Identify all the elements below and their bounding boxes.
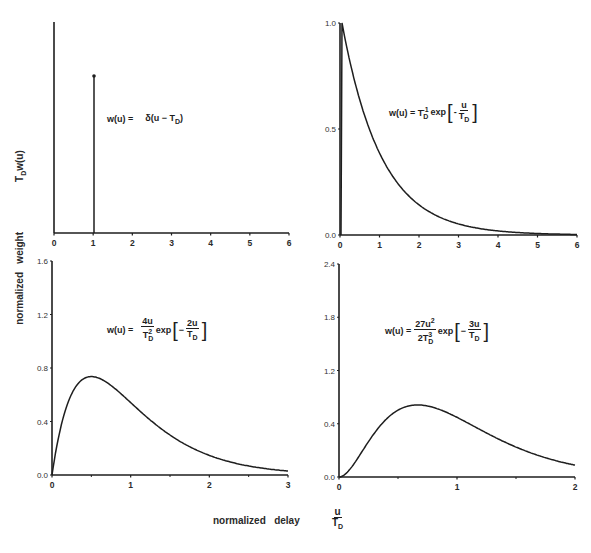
x-tick-label: 0 (338, 240, 343, 250)
x-tick-label: 1 (128, 480, 133, 490)
impulse-arrow-tip (92, 74, 96, 78)
x-axis-label-fraction: uTD (330, 507, 345, 532)
y-ticks: 0.00.40.81.21.6 (37, 257, 52, 480)
exponential-curve (341, 23, 577, 235)
y-tick-label: 0.4 (324, 420, 336, 429)
x-ticks: 0123456 (52, 233, 292, 248)
x-ticks: 0123456 (338, 235, 580, 250)
exp-label: exp (438, 326, 454, 336)
y-tick-label: 0.5 (325, 125, 337, 134)
figure-canvas: 0123456 0123456 0.00.51.0 0123 0.00.40.8… (0, 0, 591, 553)
x-tick-label: 3 (456, 240, 461, 250)
x-tick-label: 1 (91, 238, 96, 248)
x-ticks: 0123 (50, 475, 291, 490)
fraction: uTD (459, 100, 470, 125)
y-tick-label: 0.0 (325, 231, 337, 240)
coefficient-fraction: 4uTD2 (141, 316, 154, 344)
formula-exponential: w(u) = TD-1 exp [ - uTD ] (389, 100, 479, 125)
right-bracket: ] (202, 320, 208, 340)
y-ticks: 0.00.41.21.82.4 (324, 260, 339, 482)
x-tick-label: 5 (535, 240, 540, 250)
x-tick-label: 4 (496, 240, 501, 250)
x-tick-label: 0 (52, 238, 57, 248)
right-bracket: ] (484, 321, 490, 341)
formula-gamma3: w(u) = 27u22TD3 exp [ − 3uTD ] (385, 316, 490, 347)
x-axis-label: normalized delay (213, 515, 300, 526)
minus-sign: − (461, 326, 466, 336)
formula-lhs: w(u) = (385, 326, 411, 336)
formula-lhs: w(u) = (107, 114, 133, 124)
x-tick-label: 0 (50, 480, 55, 490)
y-tick-label: 1.2 (324, 367, 336, 376)
panel-bottom-left: 0123 0.00.40.81.21.6 (37, 257, 291, 490)
x-ticks: 012 (337, 477, 578, 492)
right-bracket: ] (472, 102, 478, 122)
x-tick-label: 1 (455, 482, 460, 492)
formula-gamma2: w(u) = 4uTD2 exp [ − 2uTD ] (107, 316, 208, 344)
y-tick-label: 1.6 (37, 257, 49, 266)
formula-lhs: w(u) = TD-1 (389, 106, 429, 120)
y-tick-label: 1.0 (325, 19, 337, 28)
formula-delta: w(u) = δ(u − TD) (107, 113, 183, 125)
x-tick-label: 5 (247, 238, 252, 248)
gamma3-curve (339, 405, 575, 477)
left-bracket: [ (454, 321, 460, 341)
x-tick-label: 0 (337, 482, 342, 492)
left-bracket: [ (447, 102, 453, 122)
panel-bottom-right: 012 0.00.41.21.82.4 (324, 260, 578, 492)
x-tick-label: 4 (208, 238, 213, 248)
x-tick-label: 3 (286, 480, 291, 490)
x-tick-label: 6 (575, 240, 580, 250)
y-tick-label: 1.8 (324, 313, 336, 322)
x-tick-label: 3 (169, 238, 174, 248)
fraction: 3uTD (468, 319, 481, 344)
left-bracket: [ (172, 320, 178, 340)
y-axis-label: normalized weight TDw(u) (14, 123, 27, 353)
exp-label: exp (431, 107, 447, 117)
x-tick-label: 2 (207, 480, 212, 490)
gamma2-curve (52, 377, 288, 475)
y-tick-label: 0.0 (37, 471, 49, 480)
coefficient-fraction: 27u22TD3 (414, 316, 435, 347)
panel-top-right: 0123456 0.00.51.0 (325, 19, 580, 250)
y-tick-label: 1.2 (37, 311, 49, 320)
exp-label: exp (156, 325, 172, 335)
x-tick-label: 6 (287, 238, 292, 248)
panel-top-left: 0123456 (52, 22, 292, 248)
y-ticks: 0.00.51.0 (325, 19, 340, 240)
y-tick-label: 2.4 (324, 260, 336, 269)
minus-sign: − (179, 325, 184, 335)
formula-rhs: δ(u − TD) (145, 113, 183, 125)
x-tick-label: 1 (377, 240, 382, 250)
y-tick-label: 0.8 (37, 364, 49, 373)
y-tick-label: 0.4 (37, 418, 49, 427)
y-tick-label: 0.0 (324, 473, 336, 482)
minus-sign: - (454, 107, 457, 117)
formula-lhs: w(u) = (107, 325, 133, 335)
x-tick-label: 2 (573, 482, 578, 492)
x-tick-label: 2 (130, 238, 135, 248)
x-tick-label: 2 (417, 240, 422, 250)
fraction: 2uTD (186, 318, 199, 343)
